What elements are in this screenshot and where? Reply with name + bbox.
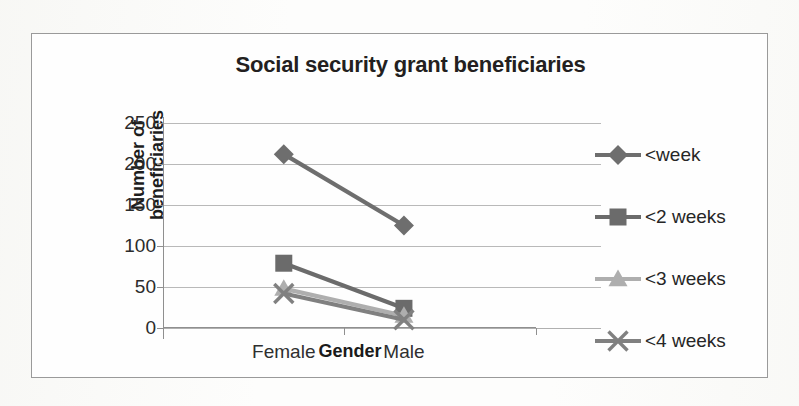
y-axis-tick-labels: 250200150100500 xyxy=(116,123,156,328)
y-axis-tick-label: 100 xyxy=(124,235,156,257)
series-line xyxy=(284,154,404,225)
chart-title: Social security grant beneficiaries xyxy=(32,52,767,78)
y-axis-tick-label: 150 xyxy=(124,194,156,216)
data-point-square xyxy=(610,209,627,226)
series-layer xyxy=(164,123,536,328)
data-point-square xyxy=(275,255,292,272)
data-point-diamond xyxy=(608,145,628,165)
legend-label: <week xyxy=(645,144,700,166)
y-axis-tick xyxy=(157,287,164,288)
legend-item[interactable]: <2 weeks xyxy=(595,204,726,230)
x-axis-tick xyxy=(536,328,537,335)
legend-label: <4 weeks xyxy=(645,330,726,352)
legend-label: <2 weeks xyxy=(645,206,726,228)
legend-item[interactable]: <4 weeks xyxy=(595,328,726,354)
y-axis-tick xyxy=(157,205,164,206)
data-point-diamond xyxy=(274,144,294,164)
y-axis-tick-label: 200 xyxy=(124,153,156,175)
legend-item[interactable]: <week xyxy=(595,142,700,168)
chart-page: Social security grant beneficiaries Numb… xyxy=(0,0,799,406)
plot-area: 250200150100500 FemaleMale Gender xyxy=(164,123,536,328)
y-axis-tick xyxy=(157,246,164,247)
data-point-diamond xyxy=(394,216,414,236)
y-axis-tick-label: 50 xyxy=(135,276,156,298)
legend-marker-square-icon xyxy=(595,206,641,228)
y-axis-tick xyxy=(157,164,164,165)
x-axis-tick xyxy=(344,328,345,335)
chart-frame: Social security grant beneficiaries Numb… xyxy=(31,33,768,378)
data-point-cross xyxy=(609,332,628,351)
series-diamond xyxy=(274,144,414,235)
legend-label: <3 weeks xyxy=(645,268,726,290)
data-point-triangle xyxy=(609,270,628,287)
series-line xyxy=(284,294,404,320)
legend-marker-triangle-icon xyxy=(595,268,641,290)
x-axis-title: Gender xyxy=(164,341,536,362)
y-axis-tick xyxy=(157,328,164,329)
y-axis-tick-label: 250 xyxy=(124,112,156,134)
y-axis-tick xyxy=(157,123,164,124)
y-axis-tick-label: 0 xyxy=(145,317,156,339)
legend-marker-diamond-icon xyxy=(595,144,641,166)
legend-item[interactable]: <3 weeks xyxy=(595,266,726,292)
legend-marker-cross-icon xyxy=(595,330,641,352)
